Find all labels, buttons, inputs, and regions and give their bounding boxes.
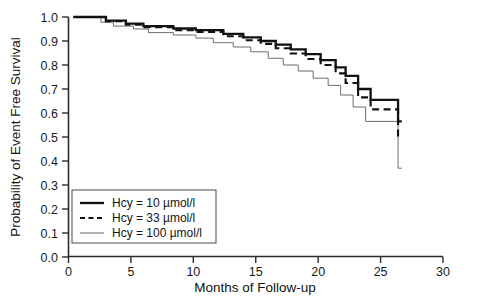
x-tick-label: 15 <box>249 265 263 279</box>
x-tick-label: 10 <box>186 265 200 279</box>
x-axis-ticks <box>69 257 444 263</box>
x-axis-title: Months of Follow-up <box>194 280 316 295</box>
legend-label-hcy-100: Hcy = 100 µmol/l <box>112 226 202 240</box>
y-tick-label: 0.5 <box>41 131 58 145</box>
y-tick-label: 0.8 <box>41 59 58 73</box>
x-tick-label: 25 <box>374 265 388 279</box>
x-axis-tick-labels: 051015202530 <box>65 265 450 279</box>
y-tick-label: 0.2 <box>41 203 58 217</box>
chart-canvas: 0.00.10.20.30.40.50.60.70.80.91.0 051015… <box>0 0 478 306</box>
y-tick-label: 0.4 <box>41 155 58 169</box>
y-tick-label: 0.1 <box>41 227 58 241</box>
legend-label-hcy-10: Hcy = 10 µmol/l <box>112 196 195 210</box>
x-tick-label: 20 <box>311 265 325 279</box>
y-axis-ticks <box>62 17 69 257</box>
y-axis-tick-labels: 0.00.10.20.30.40.50.60.70.80.91.0 <box>41 11 58 265</box>
y-tick-label: 0.0 <box>41 251 58 265</box>
x-tick-label: 5 <box>127 265 134 279</box>
survival-curve-hcy-100 <box>73 17 401 168</box>
y-tick-label: 1.0 <box>41 11 58 25</box>
survival-curve-hcy-10 <box>73 17 401 121</box>
y-tick-label: 0.3 <box>41 179 58 193</box>
survival-curve-hcy-33 <box>73 17 401 137</box>
legend-label-hcy-33: Hcy = 33 µmol/l <box>112 211 195 225</box>
y-tick-label: 0.9 <box>41 35 58 49</box>
y-tick-label: 0.7 <box>41 83 58 97</box>
legend: Hcy = 10 µmol/l Hcy = 33 µmol/l Hcy = 10… <box>72 190 216 243</box>
x-tick-label: 0 <box>65 265 72 279</box>
y-tick-label: 0.6 <box>41 107 58 121</box>
kaplan-meier-figure: 0.00.10.20.30.40.50.60.70.80.91.0 051015… <box>0 0 478 306</box>
x-tick-label: 30 <box>436 265 450 279</box>
y-axis-title: Probability of Event Free Survival <box>8 37 23 237</box>
